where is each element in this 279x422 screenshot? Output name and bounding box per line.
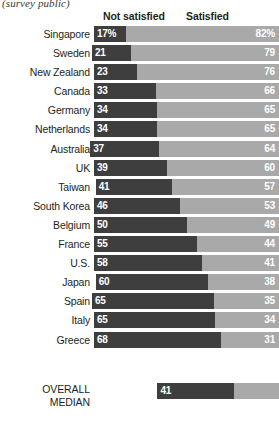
bar-track: 6535 [92, 293, 279, 309]
value-satisfied: 31 [264, 332, 275, 348]
stacked-bar: 6038 [96, 274, 279, 290]
chart-row: Taiwan4157 [0, 179, 279, 198]
stacked-bar: 4653 [94, 198, 279, 214]
median-label-line2: MEDIAN [0, 396, 90, 409]
chart-row: Germany3465 [0, 102, 279, 121]
chart-row: Sweden2179 [0, 45, 279, 64]
survey-note: (survey public) [2, 0, 70, 9]
overall-median-label: OVERALL MEDIAN [0, 383, 90, 409]
country-label: South Korea [0, 198, 90, 214]
overall-median-row: OVERALL MEDIAN 4157 [0, 383, 279, 415]
bar-track: 4157 [92, 179, 279, 195]
chart-row: Japan6038 [0, 274, 279, 293]
value-not-satisfied: 21 [95, 45, 106, 61]
segment-satisfied: 41 [202, 255, 279, 271]
chart-row: Greece6831 [0, 332, 279, 351]
value-satisfied: 60 [264, 160, 275, 176]
segment-not-satisfied: 33 [94, 83, 156, 99]
value-satisfied: 49 [264, 217, 275, 233]
segment-not-satisfied: 65 [92, 293, 214, 309]
value-satisfied: 64 [264, 141, 275, 157]
value-satisfied: 66 [264, 83, 275, 99]
chart-row: U.S.5841 [0, 255, 279, 274]
value-not-satisfied: 46 [97, 198, 108, 214]
value-not-satisfied: 58 [97, 255, 108, 271]
country-label: Canada [0, 83, 90, 99]
segment-not-satisfied: 34 [94, 121, 158, 137]
segment-satisfied: 65 [157, 102, 279, 118]
segment-not-satisfied: 68 [94, 332, 221, 348]
bar-track: 2179 [92, 45, 279, 61]
bar-track: 3465 [92, 121, 279, 137]
value-satisfied: 44 [264, 236, 275, 252]
value-satisfied: 35 [264, 293, 275, 309]
overall-median-bar-track: 4157 [92, 383, 279, 399]
country-label: Netherlands [0, 121, 90, 137]
segment-satisfied: 53 [180, 198, 279, 214]
stacked-bar: 5841 [94, 255, 279, 271]
country-label: Taiwan [0, 179, 90, 195]
chart-row: South Korea4653 [0, 198, 279, 217]
chart-row: Belgium5049 [0, 217, 279, 236]
bar-track: 5544 [92, 236, 279, 252]
segment-satisfied: 57 [172, 179, 279, 195]
stacked-bar: 2376 [94, 64, 279, 80]
country-label: Germany [0, 102, 90, 118]
chart-row: New Zealand2376 [0, 64, 279, 83]
segment-satisfied: 49 [187, 217, 279, 233]
value-not-satisfied: 23 [97, 64, 108, 80]
bar-track: 17%82% [92, 26, 279, 42]
chart-row: Netherlands3465 [0, 121, 279, 140]
segment-satisfied: 38 [208, 274, 279, 290]
value-not-satisfied: 65 [95, 293, 106, 309]
value-satisfied: 53 [264, 198, 275, 214]
value-satisfied: 34 [264, 312, 275, 328]
stacked-bar: 4157 [96, 179, 279, 195]
value-not-satisfied: 39 [97, 160, 108, 176]
segment-satisfied: 79 [131, 45, 279, 61]
segment-satisfied: 82% [126, 26, 279, 42]
segment-not-satisfied: 46 [94, 198, 180, 214]
value-not-satisfied: 34 [97, 102, 108, 118]
value-satisfied: 57 [264, 179, 275, 195]
segment-not-satisfied: 37 [90, 141, 159, 157]
segment-not-satisfied: 50 [94, 217, 188, 233]
segment-not-satisfied: 55 [94, 236, 197, 252]
country-label: New Zealand [0, 64, 90, 80]
chart-row: Spain6535 [0, 293, 279, 312]
bar-track: 6038 [92, 274, 279, 290]
stacked-bar: 6535 [92, 293, 279, 309]
chart-row: Australia3764 [0, 141, 279, 160]
value-satisfied: 79 [264, 45, 275, 61]
segment-not-satisfied: 65 [94, 312, 216, 328]
segment-satisfied: 34 [215, 312, 279, 328]
country-label: Australia [0, 141, 90, 157]
bar-chart-plot: Singapore17%82%Sweden2179New Zealand2376… [0, 26, 279, 351]
country-label: Italy [0, 312, 90, 328]
segment-not-satisfied: 58 [94, 255, 202, 271]
bar-track: 2376 [92, 64, 279, 80]
stacked-bar: 17%82% [94, 26, 279, 42]
segment-satisfied: 60 [167, 160, 279, 176]
value-satisfied: 41 [264, 255, 275, 271]
segment-satisfied: 66 [156, 83, 279, 99]
bar-track: 3366 [92, 83, 279, 99]
stacked-bar: 6534 [94, 312, 279, 328]
segment-not-satisfied: 17% [94, 26, 126, 42]
segment-satisfied: 31 [221, 332, 279, 348]
value-not-satisfied: 50 [97, 217, 108, 233]
stacked-bar: 3465 [94, 102, 279, 118]
chart-row: Italy6534 [0, 312, 279, 331]
stacked-bar: 3960 [94, 160, 279, 176]
header-not-satisfied: Not satisfied [103, 10, 165, 22]
bar-track: 3764 [92, 141, 279, 157]
value-not-satisfied: 55 [97, 236, 108, 252]
bar-track: 5049 [92, 217, 279, 233]
median-segment-satisfied: 57 [234, 383, 279, 399]
country-label: U.S. [0, 255, 90, 271]
segment-satisfied: 44 [197, 236, 279, 252]
value-not-satisfied: 34 [97, 121, 108, 137]
segment-not-satisfied: 60 [96, 274, 208, 290]
median-value-not-satisfied: 41 [160, 383, 171, 399]
chart-row: France5544 [0, 236, 279, 255]
